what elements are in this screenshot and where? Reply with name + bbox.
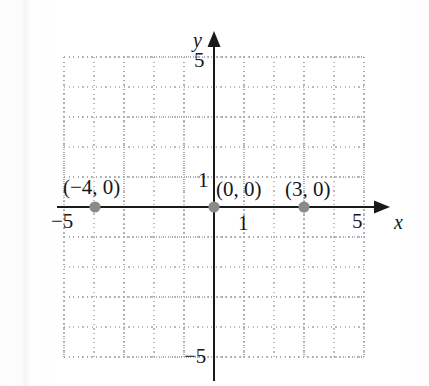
x-axis-label: x bbox=[394, 212, 403, 232]
y-tick-label-minus5: −5 bbox=[184, 346, 206, 367]
data-point-0-0 bbox=[208, 201, 219, 212]
x-tick-label-1: 1 bbox=[238, 213, 249, 234]
graph-figure: y x 5 1 −5 −5 1 5 (−4, 0) (0, 0) (3, 0) bbox=[0, 0, 429, 386]
y-tick-label-1: 1 bbox=[198, 170, 209, 191]
point-label-3-0: (3, 0) bbox=[285, 179, 331, 200]
data-point-minus4-0 bbox=[89, 201, 100, 212]
x-tick-label-minus5: −5 bbox=[51, 211, 73, 232]
data-point-3-0 bbox=[298, 201, 309, 212]
point-label-0-0: (0, 0) bbox=[216, 179, 262, 200]
y-axis-arrowhead bbox=[208, 31, 221, 47]
y-tick-label-5: 5 bbox=[194, 50, 205, 71]
point-label-minus4-0: (−4, 0) bbox=[63, 177, 120, 198]
x-tick-label-5: 5 bbox=[352, 211, 363, 232]
x-axis-arrowhead bbox=[374, 201, 390, 214]
y-axis-label: y bbox=[193, 30, 202, 50]
x-axis bbox=[57, 201, 390, 214]
